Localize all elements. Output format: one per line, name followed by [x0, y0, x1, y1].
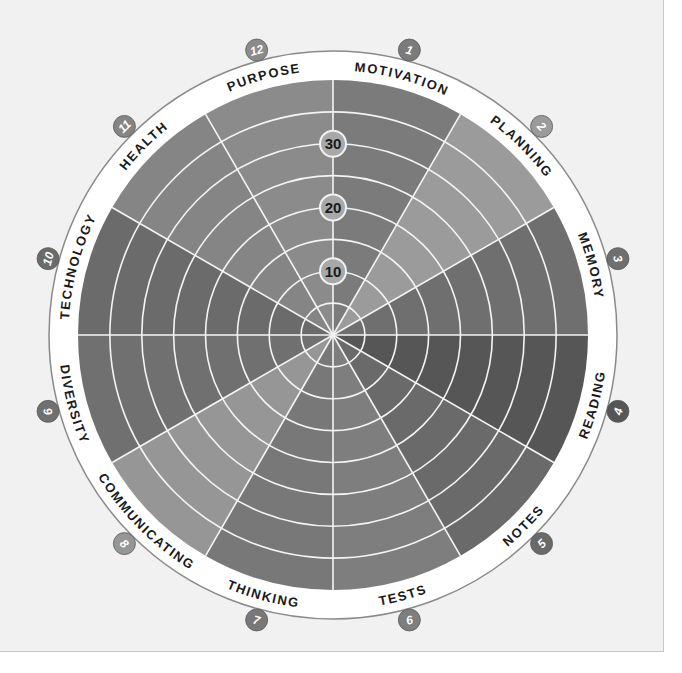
number-badge-8: 8	[113, 533, 135, 555]
number-badge-6: 6	[398, 609, 420, 631]
svg-text:30: 30	[325, 135, 342, 152]
number-badge-5: 5	[531, 533, 553, 555]
number-badge-7: 7	[246, 609, 268, 631]
scale-marker-10: 10	[320, 258, 346, 284]
scale-marker-30: 30	[320, 131, 346, 157]
svg-text:20: 20	[325, 199, 342, 216]
number-badge-9: 9	[37, 400, 59, 422]
number-badge-11: 11	[113, 115, 135, 137]
svg-text:10: 10	[325, 263, 342, 280]
scale-marker-20: 20	[320, 195, 346, 221]
study-skills-wheel: MOTIVATIONPLANNINGMEMORYREADINGNOTESTEST…	[0, 0, 682, 673]
number-badge-3: 3	[607, 248, 629, 270]
number-badge-4: 4	[607, 400, 629, 422]
number-badge-10: 10	[37, 248, 59, 270]
number-badge-12: 12	[246, 39, 268, 61]
number-badge-1: 1	[398, 39, 420, 61]
scale-markers: 102030	[320, 131, 346, 285]
number-badge-2: 2	[531, 115, 553, 137]
